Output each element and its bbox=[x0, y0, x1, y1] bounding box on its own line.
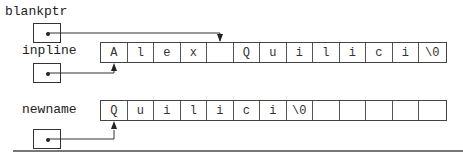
pointer-arrows bbox=[0, 0, 463, 155]
inpline-arrow bbox=[48, 65, 114, 73]
newname-arrow bbox=[48, 130, 114, 139]
bottom-rule bbox=[13, 150, 463, 152]
blankptr-arrow bbox=[48, 33, 220, 41]
